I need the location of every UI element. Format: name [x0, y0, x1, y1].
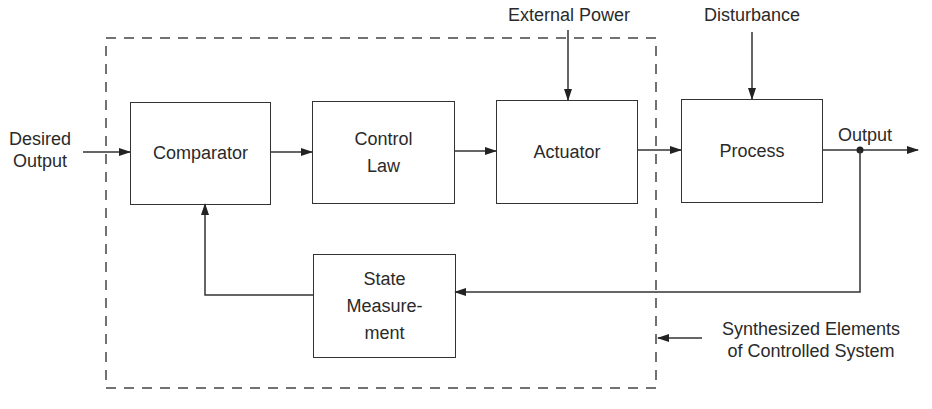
- output-label: Output: [830, 124, 900, 146]
- desired-output-line2: Output: [2, 150, 78, 172]
- boundary-label: Synthesized Elements of Controlled Syste…: [706, 318, 916, 362]
- actuator-label: Actuator: [533, 139, 600, 166]
- process-block: Process: [681, 99, 823, 203]
- state-measurement-label-line1: State: [346, 266, 422, 293]
- control-law-block: Control Law: [312, 101, 455, 204]
- state-measurement-label-line2: Measure-: [346, 293, 422, 320]
- state-measurement-block: State Measure- ment: [313, 254, 456, 358]
- actuator-block: Actuator: [496, 100, 638, 204]
- comparator-label: Comparator: [153, 140, 248, 167]
- arrow-state-measurement-to-comparator: [205, 204, 313, 295]
- comparator-block: Comparator: [130, 102, 271, 205]
- control-law-label-line1: Control: [354, 126, 412, 153]
- boundary-label-line1: Synthesized Elements: [706, 318, 916, 340]
- control-law-label-line2: Law: [354, 153, 412, 180]
- external-power-label: External Power: [500, 4, 638, 26]
- process-label: Process: [719, 138, 784, 165]
- state-measurement-label-line3: ment: [346, 320, 422, 347]
- boundary-label-line2: of Controlled System: [706, 340, 916, 362]
- disturbance-label: Disturbance: [692, 4, 812, 26]
- desired-output-line1: Desired: [2, 128, 78, 150]
- desired-output-label: Desired Output: [2, 128, 78, 172]
